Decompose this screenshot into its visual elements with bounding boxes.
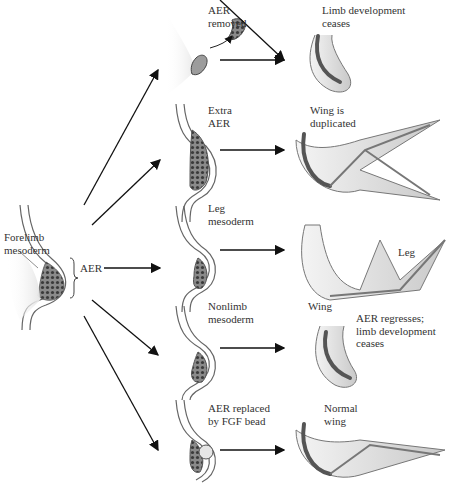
nonlimb-result: AER regresses; limb development ceases (356, 312, 436, 350)
result-line: ceases (356, 337, 436, 350)
aer-removed-label: AER removed (208, 4, 246, 29)
result-line: Wing is (310, 104, 356, 117)
label-line: by FGF bead (208, 415, 270, 428)
wing-result-label: Wing (308, 300, 332, 313)
result-line: Limb development (322, 4, 405, 17)
fan-arrows (84, 70, 160, 450)
fgf-bead-label: AER replaced by FGF bead (208, 402, 270, 427)
result-line: duplicated (310, 117, 356, 130)
label-line: Extra (208, 104, 232, 117)
label-line: AER replaced (208, 402, 270, 415)
extra-aer-result: Wing is duplicated (310, 104, 356, 129)
result-line: wing (324, 415, 358, 428)
result-line: ceases (322, 17, 405, 30)
forelimb-mesoderm-label: Forelimb mesoderm (4, 231, 50, 256)
result-line: limb development (356, 325, 436, 338)
aer-label: AER (80, 262, 102, 275)
label-line: Nonlimb (208, 300, 254, 313)
forelimb-label-line2: mesoderm (4, 244, 50, 257)
row-nonlimb-mesoderm (176, 306, 357, 400)
label-line: AER (208, 4, 246, 17)
label-line: Leg (208, 202, 254, 215)
fgf-bead-result: Normal wing (324, 402, 358, 427)
source-limb-bud (7, 205, 78, 330)
label-line: removed (208, 17, 246, 30)
leg-mesoderm-label: Leg mesoderm (208, 202, 254, 227)
aer-removed-result: Limb development ceases (322, 4, 405, 29)
extra-aer-label: Extra AER (208, 104, 232, 129)
nonlimb-mesoderm-label: Nonlimb mesoderm (208, 300, 254, 325)
leg-result-label: Leg (398, 246, 415, 259)
label-line: mesoderm (208, 215, 254, 228)
result-line: AER regresses; (356, 312, 436, 325)
forelimb-label-line1: Forelimb (4, 231, 50, 244)
label-line: mesoderm (208, 313, 254, 326)
aer-limb-experiment-diagram: Forelimb mesoderm AER AER removed Limb d… (0, 0, 453, 486)
result-line: Normal (324, 402, 358, 415)
label-line: AER (208, 117, 232, 130)
